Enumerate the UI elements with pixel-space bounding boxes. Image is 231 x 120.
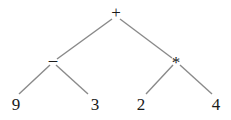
node-root-plus: +: [111, 3, 121, 22]
node-minus: –: [48, 50, 58, 69]
leaf-2: 2: [137, 95, 146, 114]
edge-times-4: [180, 65, 212, 94]
edge-minus-3: [56, 65, 88, 94]
leaf-9: 9: [12, 95, 21, 114]
leaf-4: 4: [212, 95, 221, 114]
expression-tree: + – * 9 3 2 4: [0, 0, 231, 120]
node-times: *: [172, 53, 181, 72]
edge-root-minus: [57, 19, 112, 59]
leaf-3: 3: [91, 95, 100, 114]
edge-times-2: [146, 65, 173, 94]
edge-minus-9: [19, 65, 50, 94]
edge-root-times: [120, 19, 172, 58]
nodes: + – * 9 3 2 4: [12, 3, 221, 114]
